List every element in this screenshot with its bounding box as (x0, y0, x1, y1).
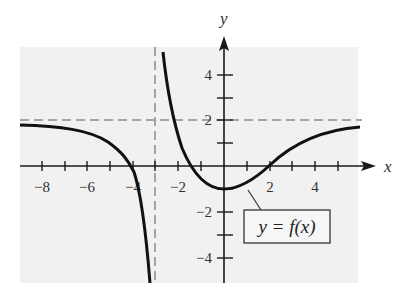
y-tick-label: 2 (205, 112, 213, 128)
x-tick-label: 4 (311, 179, 319, 195)
x-tick-label: −6 (79, 179, 95, 195)
x-tick-label: 2 (266, 179, 274, 195)
x-tick-label: −8 (34, 179, 50, 195)
function-label: y = f(x) (256, 216, 315, 238)
y-tick-label: 4 (205, 67, 213, 83)
y-tick-label: −2 (196, 204, 212, 220)
y-axis-label: y (218, 9, 228, 28)
x-axis-label: x (383, 157, 392, 176)
y-tick-label: −4 (196, 250, 212, 266)
function-graph: −8 −6 −4 −2 2 4 x 4 2 −2 −4 y y = f(x) (0, 0, 409, 299)
x-tick-label: −2 (170, 179, 186, 195)
